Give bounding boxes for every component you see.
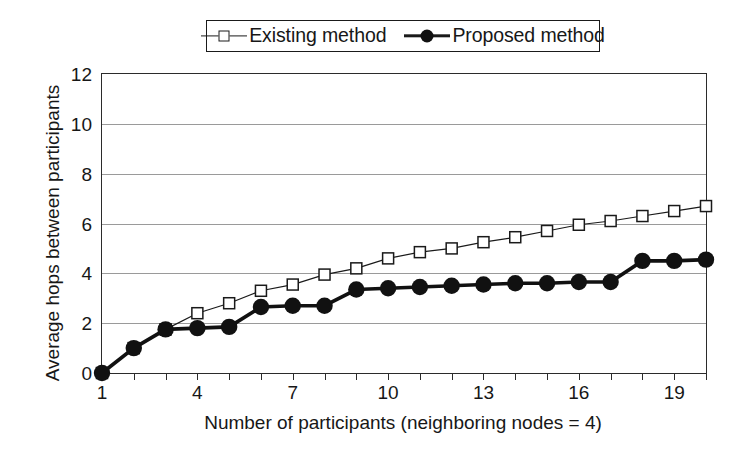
data-point	[255, 285, 266, 296]
x-axis-title: Number of participants (neighboring node…	[101, 412, 705, 434]
data-point	[542, 225, 553, 236]
x-tick-label: 19	[654, 383, 694, 402]
x-tick-mark	[515, 373, 516, 380]
data-point	[94, 365, 110, 381]
y-tick-label: 12	[46, 65, 92, 84]
x-tick-mark	[134, 373, 135, 380]
legend-entry-proposed-method: Proposed method	[404, 26, 604, 46]
data-point	[510, 232, 521, 243]
data-point	[669, 206, 680, 217]
x-tick-mark	[611, 373, 612, 380]
x-tick-mark	[325, 373, 326, 380]
data-point	[634, 253, 650, 269]
data-point	[412, 279, 428, 295]
data-point	[224, 298, 235, 309]
data-point	[253, 299, 269, 315]
x-tick-mark	[706, 373, 707, 380]
data-series-layer	[102, 74, 706, 373]
data-point	[316, 298, 332, 314]
data-point	[351, 263, 362, 274]
x-tick-mark	[388, 373, 389, 380]
legend-entry-existing-method: Existing method	[201, 26, 386, 46]
x-tick-mark	[674, 373, 675, 380]
x-tick-label: 16	[559, 383, 599, 402]
x-tick-label: 4	[177, 383, 217, 402]
data-point	[539, 275, 555, 291]
y-tick-label: 8	[46, 164, 92, 183]
data-point	[414, 247, 425, 258]
plot-area: 024681012 14710131619	[101, 73, 707, 374]
data-point	[192, 308, 203, 319]
data-point	[319, 269, 330, 280]
data-point	[602, 274, 618, 290]
legend-label-existing-method: Existing method	[249, 26, 386, 46]
data-point	[507, 275, 523, 291]
x-tick-mark	[579, 373, 580, 380]
x-tick-label: 1	[82, 383, 122, 402]
x-tick-label: 7	[273, 383, 313, 402]
x-tick-mark	[420, 373, 421, 380]
legend-label-proposed-method: Proposed method	[452, 26, 604, 46]
y-tick-label: 0	[46, 364, 92, 383]
data-point	[157, 321, 173, 337]
chart-legend: Existing method Proposed method	[206, 20, 600, 52]
x-tick-mark	[452, 373, 453, 380]
data-point	[605, 216, 616, 227]
data-point	[571, 274, 587, 290]
data-point	[443, 278, 459, 294]
legend-marker-filled-circle-icon	[404, 27, 450, 45]
data-point	[285, 298, 301, 314]
x-tick-mark	[197, 373, 198, 380]
x-tick-label: 10	[368, 383, 408, 402]
x-tick-mark	[547, 373, 548, 380]
data-point	[380, 280, 396, 296]
data-point	[383, 253, 394, 264]
y-tick-label: 4	[46, 264, 92, 283]
x-tick-label: 13	[463, 383, 503, 402]
series-line-existing-method	[102, 206, 706, 373]
data-point	[698, 251, 714, 267]
x-tick-mark	[293, 373, 294, 380]
legend-marker-open-square-icon	[201, 27, 247, 45]
x-tick-mark	[229, 373, 230, 380]
data-point	[701, 201, 712, 212]
data-point	[573, 219, 584, 230]
y-tick-label: 2	[46, 314, 92, 333]
x-tick-mark	[166, 373, 167, 380]
chart-figure: Existing method Proposed method Average …	[0, 0, 741, 452]
y-tick-label: 10	[46, 114, 92, 133]
x-tick-mark	[483, 373, 484, 380]
data-point	[189, 320, 205, 336]
data-point	[221, 319, 237, 335]
data-point	[475, 276, 491, 292]
x-tick-mark	[356, 373, 357, 380]
data-point	[348, 281, 364, 297]
data-point	[478, 237, 489, 248]
x-tick-mark	[261, 373, 262, 380]
y-tick-label: 6	[46, 214, 92, 233]
data-point	[126, 340, 142, 356]
x-tick-mark	[642, 373, 643, 380]
data-point	[446, 243, 457, 254]
data-point	[637, 211, 648, 222]
data-point	[287, 279, 298, 290]
data-point	[666, 253, 682, 269]
